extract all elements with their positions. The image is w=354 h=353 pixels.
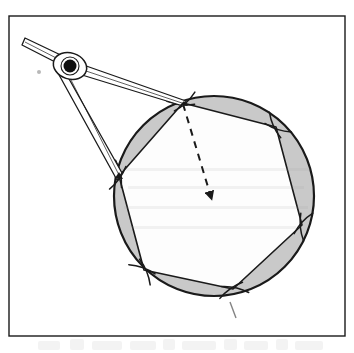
figure-page xyxy=(0,0,354,353)
faint-pencil-dot xyxy=(37,70,41,74)
page-caption-smudge xyxy=(0,338,354,353)
geometry-figure xyxy=(0,0,354,353)
compass-pivot-joint xyxy=(64,60,77,73)
